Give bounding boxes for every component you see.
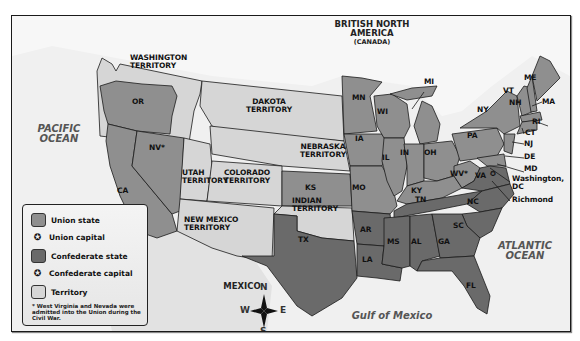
washington-dc-label: Washington,DC <box>512 175 564 191</box>
compass-s: S <box>260 326 266 332</box>
confederate-capital-star-icon: ✪ <box>31 267 44 279</box>
legend-confederate-state: Confederate state <box>31 249 128 263</box>
colorado-territory-label: COLORADOTERRITORY <box>212 169 282 185</box>
label-al: AL <box>411 238 421 246</box>
compass-w: W <box>240 305 250 315</box>
label-ks: KS <box>305 184 316 192</box>
label-pa: PA <box>467 132 477 140</box>
state-wi <box>374 94 410 138</box>
label-me: ME <box>524 74 536 82</box>
union-capital-star-icon: ✪ <box>31 231 44 243</box>
label-ar: AR <box>360 226 371 234</box>
label-de: DE <box>524 153 535 161</box>
richmond-label: Richmond <box>512 196 553 204</box>
label-ma: MA <box>542 98 555 106</box>
label-vt: VT <box>503 87 514 95</box>
label-tn: TN <box>415 196 426 204</box>
legend-union-state: Union state <box>31 213 100 227</box>
label-wv: WV* <box>450 170 468 178</box>
label-nc: NC <box>467 198 479 206</box>
label-ga: GA <box>438 238 450 246</box>
pacific-ocean-label: PACIFIC OCEAN <box>34 124 84 144</box>
indian-territory-label: INDIANTERRITORY <box>292 197 338 213</box>
label-il: IL <box>382 154 389 162</box>
state-nj <box>504 134 515 154</box>
legend-confederate-capital: ✪ Confederate capital <box>31 267 133 279</box>
label-ct: CT <box>525 129 535 137</box>
label-in: IN <box>400 149 409 157</box>
label-ny: NY <box>477 106 489 114</box>
new-mexico-territory-label: NEW MEXICOTERRITORY <box>184 216 238 232</box>
map-frame: ✪ BRITISH NORTH AMERICA (CANADA) PACIFIC… <box>11 15 571 332</box>
union-state-swatch <box>31 213 46 227</box>
label-nj: NJ <box>524 140 533 148</box>
territory-swatch <box>31 285 46 299</box>
label-mn: MN <box>352 94 366 102</box>
state-fl <box>417 256 490 314</box>
nebraska-territory-label: NEBRASKATERRITORY <box>288 143 358 159</box>
label-va: VA <box>475 172 486 180</box>
label-ms: MS <box>387 238 400 246</box>
richmond-capital-marker: ✪ <box>490 170 496 178</box>
label-or: OR <box>132 98 144 106</box>
label-la: LA <box>362 256 372 264</box>
legend-union-capital: ✪ Union capital <box>31 231 105 243</box>
compass-rose: N S W E <box>240 286 288 332</box>
gulf-of-mexico-label: Gulf of Mexico <box>342 311 442 321</box>
label-md: MD <box>524 165 538 173</box>
british-north-america-label: BRITISH NORTH AMERICA (CANADA) <box>312 20 432 47</box>
label-sc: SC <box>453 222 464 230</box>
label-mi: MI <box>424 78 434 86</box>
label-ri: RI <box>532 118 540 126</box>
label-nh: NH <box>509 99 521 107</box>
map-legend: Union state ✪ Union capital Confederate … <box>22 204 148 326</box>
label-ky: KY <box>411 187 422 195</box>
legend-footnote: * West Virginia and Nevada were admitted… <box>32 303 144 321</box>
label-ca: CA <box>117 187 128 195</box>
label-nv: NV* <box>149 144 165 152</box>
label-mo: MO <box>352 184 366 192</box>
label-fl: FL <box>466 282 476 290</box>
dakota-territory-label: DAKOTATERRITORY <box>234 98 304 114</box>
washington-territory-label: WASHINGTONTERRITORY <box>130 54 187 70</box>
label-ia: IA <box>355 135 363 143</box>
compass-e: E <box>280 305 286 315</box>
label-oh: OH <box>424 149 436 157</box>
label-wi: WI <box>377 108 388 116</box>
confederate-state-swatch <box>31 249 46 263</box>
compass-n: N <box>260 282 268 292</box>
atlantic-ocean-label: ATLANTIC OCEAN <box>495 241 555 261</box>
legend-territory: Territory <box>31 285 88 299</box>
label-tx: TX <box>298 236 309 244</box>
